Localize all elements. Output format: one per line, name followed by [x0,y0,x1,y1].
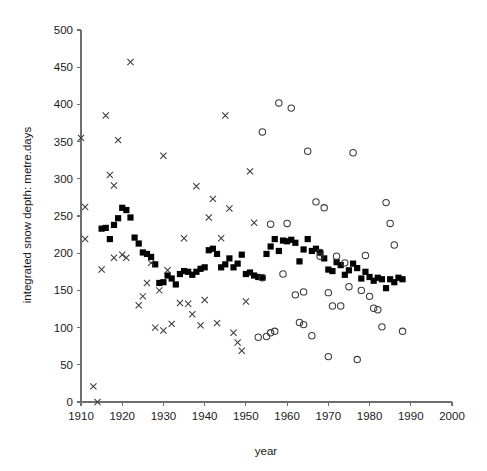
data-point [111,255,117,261]
data-point [82,204,88,210]
y-tick-label-50: 50 [60,359,73,371]
x-tick-label-1950: 1950 [233,410,259,422]
data-point [276,100,282,106]
x-axis-title: year [255,445,278,457]
data-point [177,300,183,306]
data-point [235,261,241,267]
data-point [362,252,368,258]
series-filled-square-series [99,205,406,292]
data-point [346,267,352,273]
data-point [156,287,162,293]
data-point [144,280,150,286]
data-point [391,242,397,248]
y-tick-label-300: 300 [54,173,73,185]
data-point [267,221,273,227]
data-point [333,253,339,259]
data-point [152,325,158,331]
data-point [379,276,385,282]
data-point [329,268,335,274]
data-point [354,265,360,271]
data-point [127,59,133,65]
data-point [131,234,137,240]
data-point [288,105,294,111]
y-tick-label-500: 500 [54,24,73,36]
data-point [115,215,121,221]
y-axis-title: integrated snow depth: metre.days [21,127,33,304]
data-point [173,281,179,287]
data-point [185,301,191,307]
y-tick-label-200: 200 [54,247,73,259]
x-tick-label-1960: 1960 [274,410,300,422]
y-tick-label-350: 350 [54,136,73,148]
data-point [82,236,88,242]
data-point [354,356,360,362]
data-point [263,251,269,257]
data-point [197,322,203,328]
data-point [235,339,241,345]
data-point [210,196,216,202]
data-point [169,275,175,281]
data-point [103,112,109,118]
data-point [136,302,142,308]
data-point [399,328,405,334]
x-tick-label-1940: 1940 [192,410,218,422]
data-point [399,276,405,282]
chart-container: 0501001502002503003504004505001910192019… [0,0,487,471]
data-point [107,236,113,242]
data-point [222,112,228,118]
data-point [350,150,356,156]
data-point [239,348,245,354]
data-point [119,252,125,258]
data-point [329,303,335,309]
data-point [379,324,385,330]
x-tick-label-1930: 1930 [151,410,177,422]
series-cross-series [78,59,257,405]
data-point [346,283,352,289]
data-point [263,333,269,339]
data-point [387,220,393,226]
data-point [90,383,96,389]
data-point [202,297,208,303]
data-point [268,243,274,249]
data-point [309,333,315,339]
data-point [115,137,121,143]
data-point [160,153,166,159]
data-point [325,289,331,295]
x-tick-label-1910: 1910 [68,410,94,422]
data-point [206,214,212,220]
data-point [123,207,129,213]
data-point [181,235,187,241]
data-point [218,235,224,241]
data-point [127,214,133,220]
data-point [276,248,282,254]
data-point [292,292,298,298]
data-point [313,199,319,205]
data-markers-group [78,59,406,405]
y-tick-label-100: 100 [54,322,73,334]
data-point [214,320,220,326]
data-point [136,240,142,246]
axes-group [81,30,452,402]
data-point [255,334,261,340]
x-tick-label-1920: 1920 [109,410,135,422]
data-point [243,298,249,304]
data-point [111,222,117,228]
x-tick-label-1980: 1980 [357,410,383,422]
data-point [251,220,257,226]
data-point [300,289,306,295]
scatter-plot: 0501001502002503003504004505001910192019… [0,0,487,471]
data-point [214,251,220,257]
data-point [284,220,290,226]
y-tick-label-450: 450 [54,61,73,73]
data-point [193,183,199,189]
data-point [160,327,166,333]
data-point [189,311,195,317]
data-point [226,255,232,261]
y-tick-label-150: 150 [54,284,73,296]
data-point [103,225,109,231]
data-point [222,261,228,267]
data-point [239,252,245,258]
data-point [305,148,311,154]
data-point [358,287,364,293]
data-point [370,305,376,311]
